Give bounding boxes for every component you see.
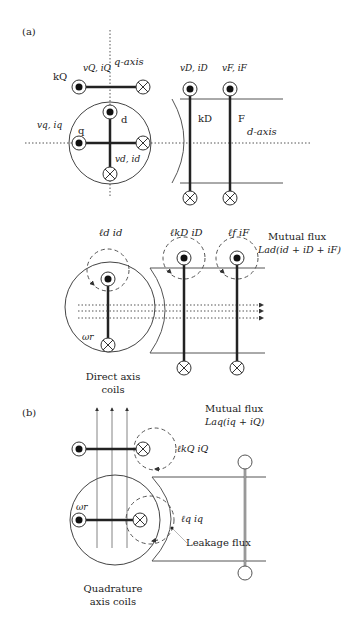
- f-leakage-label: ℓf iF: [228, 228, 249, 238]
- dot-conductor-icon: [72, 80, 86, 94]
- dot-conductor-icon: [177, 251, 191, 265]
- d-voltage-current: vd, id: [115, 155, 140, 164]
- cross-conductor-icon: [101, 338, 115, 352]
- hollow-conductor-icon: [238, 455, 252, 469]
- kd-leakage-label: ℓkD iD: [170, 228, 203, 238]
- kq-voltage-current: vQ, iQ: [83, 64, 111, 73]
- mutual-flux-label: Mutual flux: [268, 232, 326, 242]
- cross-conductor-icon: [230, 361, 244, 375]
- dot-conductor-icon: [183, 82, 197, 96]
- kq-leakage-label: ℓkQ iQ: [177, 444, 208, 454]
- dot-conductor-icon: [72, 136, 86, 150]
- cross-conductor-icon: [136, 442, 150, 456]
- direct-axis-caption: Direct axis coils: [78, 370, 148, 396]
- q-coil-label: q: [78, 126, 84, 136]
- d-coil-label: d: [121, 115, 127, 125]
- cross-conductor-icon: [177, 361, 191, 375]
- panel-b-label: (b): [22, 408, 36, 418]
- rotor-speed-label-b: ωr: [76, 503, 88, 512]
- dot-conductor-icon: [223, 82, 237, 96]
- dot-conductor-icon: [103, 105, 117, 119]
- hollow-conductor-icon: [238, 566, 252, 580]
- cross-conductor-icon: [136, 80, 150, 94]
- f-coil-label: F: [238, 114, 245, 124]
- mutual-flux-expression: Lad(id + iD + iF): [258, 245, 341, 255]
- rotor-speed-label: ωr: [82, 333, 94, 342]
- d-leakage-label: ℓd id: [99, 228, 122, 238]
- q-voltage-current: vq, iq: [37, 121, 62, 130]
- cross-conductor-icon: [223, 191, 237, 205]
- cross-conductor-icon: [103, 167, 117, 181]
- kd-voltage-current: vD, iD: [180, 64, 208, 73]
- mutual-flux-expression-b: Laq(iq + iQ): [205, 417, 264, 427]
- panel-a-label: (a): [22, 27, 36, 37]
- kd-coil-label: kD: [198, 114, 212, 124]
- dot-conductor-icon: [101, 272, 115, 286]
- dot-conductor-icon: [72, 442, 86, 456]
- cross-conductor-icon: [133, 513, 147, 527]
- d-axis-label: d-axis: [247, 127, 277, 137]
- machine-coils-diagram: [0, 0, 344, 623]
- quadrature-axis-caption: Quadrature axis coils: [78, 582, 148, 608]
- q-leakage-label: ℓq iq: [181, 514, 203, 524]
- q-axis-label: q-axis: [114, 57, 144, 67]
- dot-conductor-icon: [230, 251, 244, 265]
- mutual-flux-label-b: Mutual flux: [205, 404, 263, 414]
- leakage-flux-label: Leakage flux: [186, 538, 251, 548]
- cross-conductor-icon: [183, 191, 197, 205]
- cross-conductor-icon: [136, 136, 150, 150]
- f-voltage-current: vF, iF: [222, 64, 247, 73]
- kq-label: kQ: [53, 72, 67, 82]
- dot-conductor-icon: [72, 513, 86, 527]
